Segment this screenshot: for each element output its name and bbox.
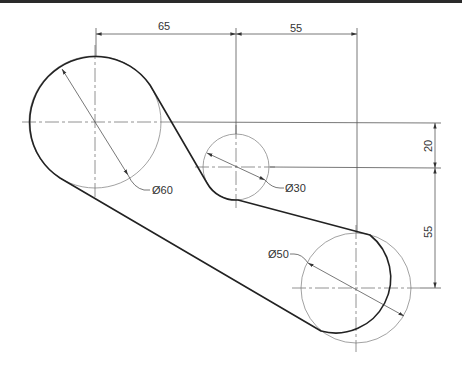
diameter-label-30: Ø30: [285, 182, 306, 194]
leader-30: [265, 180, 284, 188]
ext-line-large-h: [170, 122, 441, 123]
diameter-label-60: Ø60: [152, 184, 173, 196]
diameter-label-50: Ø50: [268, 248, 289, 260]
ext-line-small-h: [270, 167, 441, 168]
leader-50: [290, 254, 308, 263]
construction-circles: [29, 56, 411, 343]
dim-label-65: 65: [158, 20, 170, 32]
dim-label-20: 20: [422, 140, 434, 152]
part-outline: [30, 56, 391, 333]
horizontal-dimensions: 65 55: [96, 20, 357, 34]
technical-drawing-canvas: 65 55 20 55 Ø60 Ø30 Ø50: [0, 0, 462, 368]
dim-label-55-v: 55: [422, 226, 434, 238]
vertical-dimensions: 20 55: [422, 123, 435, 288]
dim-label-55-h: 55: [290, 22, 302, 34]
center-lines: [22, 45, 420, 352]
